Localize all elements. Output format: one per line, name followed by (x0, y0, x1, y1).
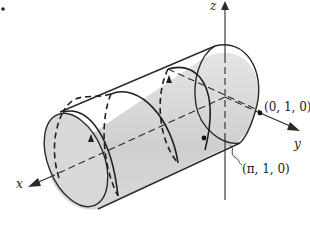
helix-direction-arrow-icon (166, 75, 172, 83)
point-label-0-1-0: (0, 1, 0) (264, 100, 310, 114)
helix-on-cylinder-diagram: z y x (0, 1, 0) (π, 1, 0) (0, 0, 310, 241)
y-axis-arrow-icon (287, 122, 300, 131)
point-label-pi-1-0: (π, 1, 0) (242, 162, 290, 176)
y-axis-label: y (293, 137, 301, 151)
bullet-marker (1, 7, 5, 11)
z-axis-arrow-icon (221, 1, 229, 10)
leader-line (230, 145, 242, 165)
x-axis-label: x (16, 177, 23, 191)
point-pi-1-0 (202, 136, 207, 141)
x-axis-arrow-icon (28, 178, 41, 187)
point-0-1-0 (258, 111, 263, 116)
z-axis-label: z (209, 0, 217, 13)
